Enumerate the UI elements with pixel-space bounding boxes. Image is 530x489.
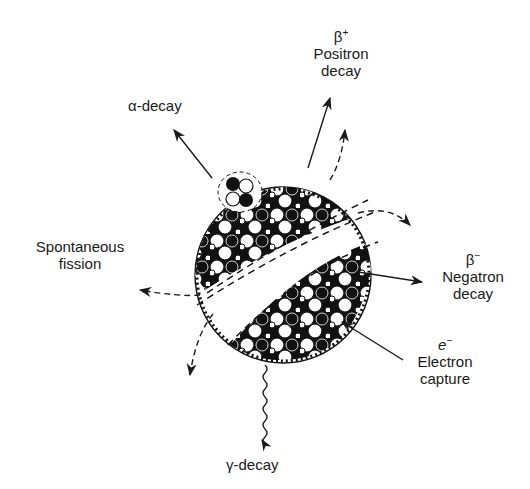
gamma-arrow — [262, 365, 267, 445]
fission-arrow-right — [358, 211, 410, 225]
electron-capture-arrow — [342, 322, 403, 360]
negatron-decay-label: β− Negatron decay — [428, 248, 518, 302]
electron-capture-line2: capture — [405, 370, 485, 387]
gamma-decay-text: γ-decay — [226, 456, 279, 473]
electron-capture-label: e− Electron capture — [405, 333, 485, 387]
alpha-decay-text: α-decay — [128, 97, 182, 114]
fission-arrow-upper-right — [330, 130, 345, 180]
electron-symbol: e− — [405, 333, 485, 353]
fission-line2: fission — [30, 255, 130, 272]
positron-line1: Positron — [301, 45, 381, 62]
positron-decay-label: β+ Positron decay — [301, 25, 381, 79]
electron-capture-line1: Electron — [405, 353, 485, 370]
gamma-decay-label: γ-decay — [226, 456, 279, 473]
alpha-arrow — [174, 130, 212, 178]
alpha-particle-cluster — [218, 172, 262, 212]
alpha-decay-label: α-decay — [128, 97, 182, 114]
spontaneous-fission-label: Spontaneous fission — [30, 238, 130, 272]
fission-arrow-left — [140, 290, 200, 295]
beta-plus-symbol: β+ — [301, 25, 381, 45]
positron-arrow — [308, 98, 330, 168]
negatron-line1: Negatron — [428, 268, 518, 285]
nucleus — [195, 172, 378, 363]
positron-line2: decay — [301, 62, 381, 79]
negatron-line2: decay — [428, 285, 518, 302]
fission-line1: Spontaneous — [30, 238, 130, 255]
beta-minus-symbol: β− — [428, 248, 518, 268]
